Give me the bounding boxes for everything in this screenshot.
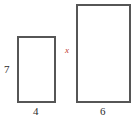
large-rectangle-height-label: x (65, 46, 69, 55)
rectangles-diagram: 7 4 x 6 (0, 0, 138, 122)
small-rectangle-height-label: 7 (4, 64, 10, 75)
large-rectangle (76, 4, 131, 103)
small-rectangle-width-label: 4 (33, 106, 39, 117)
large-rectangle-width-label: 6 (100, 106, 106, 117)
small-rectangle (17, 36, 56, 103)
